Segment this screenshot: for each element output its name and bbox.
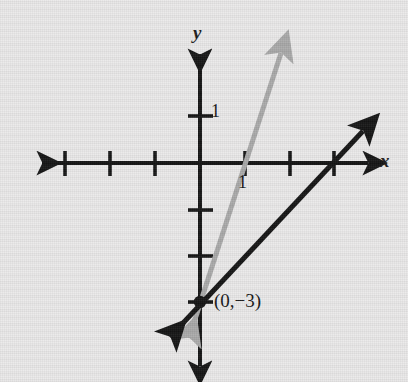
coordinate-plane-svg (0, 0, 408, 382)
y-axis-label: y (193, 22, 201, 44)
x-axis-tick-label-1: 1 (238, 172, 247, 193)
x-axis (42, 151, 368, 176)
graph-figure: y x 1 1 (0,−3) (0, 0, 408, 382)
y-axis-tick-label-1: 1 (211, 101, 220, 122)
y-axis (188, 54, 213, 366)
y-intercept-point-label: (0,−3) (214, 290, 261, 312)
x-axis-label: x (380, 150, 390, 172)
y-intercept-point-marker (194, 296, 206, 308)
